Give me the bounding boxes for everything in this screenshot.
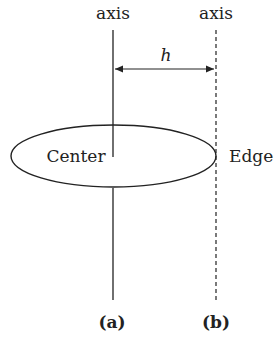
diagram-canvas: axis axis h Center Edge (a) (b) (0, 0, 280, 338)
edge-label: Edge (229, 146, 273, 166)
center-label: Center (46, 146, 106, 166)
distance-label: h (161, 45, 172, 65)
panel-label-a: (a) (98, 312, 125, 332)
panel-label-b: (b) (202, 312, 230, 332)
axis-label-left: axis (96, 3, 130, 23)
axis-label-right: axis (199, 3, 233, 23)
